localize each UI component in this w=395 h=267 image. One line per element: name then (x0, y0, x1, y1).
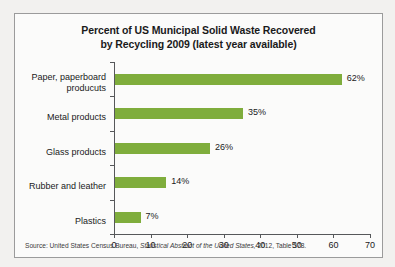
category-label-paper: Paper, paperboard producuts (10, 72, 106, 94)
bar-plastics (115, 212, 141, 223)
chart-title: Percent of US Municipal Solid Waste Reco… (15, 23, 382, 51)
source-suffix: 2012, Table 378. (256, 242, 306, 249)
category-tick (110, 96, 114, 97)
category-tick (110, 165, 114, 166)
category-label-plastics: Plastics (10, 216, 106, 227)
bar-value-glass: 26% (215, 142, 233, 152)
plot-area: Paper, paperboard producuts Metal produc… (114, 62, 370, 234)
bar-metal (115, 108, 243, 119)
value-tick (260, 234, 261, 238)
value-tick (333, 234, 334, 238)
bar-value-metal: 35% (248, 107, 266, 117)
category-label-metal: Metal products (10, 112, 106, 123)
category-tick (110, 131, 114, 132)
chart-title-line-1: Percent of US Municipal Solid Waste Reco… (15, 23, 382, 37)
source-publication-title: Statistical Abstract of the United State… (140, 242, 256, 249)
source-note: Source: United States Census Bureau, Sta… (25, 241, 306, 250)
value-tick (114, 234, 115, 238)
bar-value-plastics: 7% (146, 211, 159, 221)
category-label-rubber: Rubber and leather (10, 181, 106, 192)
value-tick-label: 70 (355, 240, 385, 250)
source-prefix: Source: United States Census Bureau, (25, 242, 140, 249)
value-tick (297, 234, 298, 238)
value-tick (151, 234, 152, 238)
bar-paper (115, 74, 342, 85)
value-axis-line (114, 234, 370, 235)
bar-glass (115, 143, 210, 154)
bar-value-rubber: 14% (171, 176, 189, 186)
value-tick (224, 234, 225, 238)
bar-rubber (115, 177, 166, 188)
value-tick (187, 234, 188, 238)
category-label-glass: Glass products (10, 147, 106, 158)
category-tick (110, 62, 114, 63)
value-tick (370, 234, 371, 238)
value-tick-label: 60 (318, 240, 348, 250)
category-tick (110, 200, 114, 201)
chart-title-line-2: by Recycling 2009 (latest year available… (15, 37, 382, 51)
chart-figure: Percent of US Municipal Solid Waste Reco… (14, 13, 383, 258)
bar-value-paper: 62% (347, 73, 365, 83)
